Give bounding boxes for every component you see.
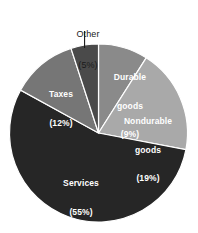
pie-chart: Durable goods (9%) Nondurable goods (19%… [0,0,198,233]
slice-value-other: (5%) [60,60,116,70]
slice-label-other: Other (5%) [60,8,116,91]
slice-label-other-line1: Other [60,29,116,39]
